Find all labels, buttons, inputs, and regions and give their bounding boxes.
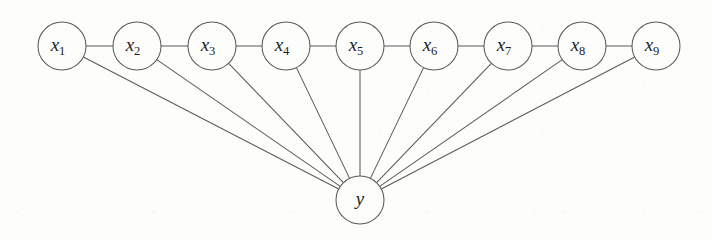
node-x5[interactable]: x5 <box>336 22 384 70</box>
node-layer: x1x2x3x4x5x6x7x8x9y <box>38 22 680 224</box>
node-x2[interactable]: x2 <box>113 22 161 70</box>
edge-x8-y <box>380 60 563 187</box>
graphical-model-figure: x1x2x3x4x5x6x7x8x9y <box>0 0 712 240</box>
node-x9[interactable]: x9 <box>632 22 680 70</box>
node-x4[interactable]: x4 <box>262 22 310 70</box>
node-x8[interactable]: x8 <box>558 22 606 70</box>
edge-x3-y <box>229 63 344 182</box>
node-label-y: y <box>354 188 365 209</box>
node-x6[interactable]: x6 <box>410 22 458 70</box>
node-x3[interactable]: x3 <box>188 22 236 70</box>
node-x1[interactable]: x1 <box>38 22 86 70</box>
edge-x7-y <box>377 63 492 182</box>
edge-x2-y <box>157 60 341 187</box>
graph-canvas: x1x2x3x4x5x6x7x8x9y <box>0 0 712 240</box>
node-y[interactable]: y <box>336 176 384 224</box>
node-x7[interactable]: x7 <box>484 22 532 70</box>
